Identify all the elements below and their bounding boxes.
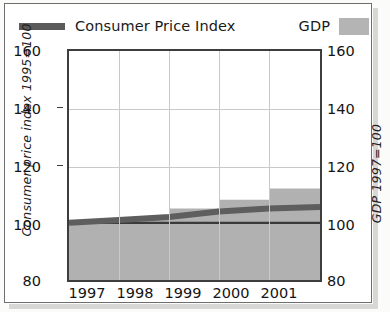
y-tick-right-140: 140 bbox=[327, 102, 367, 117]
y-tick-right-100: 100 bbox=[327, 218, 367, 233]
tick-mark-left-120 bbox=[57, 165, 63, 166]
series-gdp-step-area bbox=[69, 188, 320, 280]
tick-mark-left-140 bbox=[57, 107, 63, 108]
y-tick-left-100: 100 bbox=[1, 218, 41, 233]
chart-figure: Consumer Price Index GDP Consumer price … bbox=[0, 0, 390, 312]
y-axis-right-title: GDP 1997=100 bbox=[369, 99, 384, 249]
gridline-x-3 bbox=[219, 51, 220, 280]
x-tick-2001: 2001 bbox=[249, 285, 309, 301]
gridline-y-120 bbox=[69, 167, 320, 168]
legend-item-cpi[interactable]: Consumer Price Index bbox=[19, 14, 235, 38]
frame-shadow-bottom bbox=[9, 304, 378, 309]
gridline-x-1 bbox=[119, 51, 120, 280]
gridline-x-2 bbox=[169, 51, 170, 280]
legend-label-gdp: GDP bbox=[299, 18, 330, 34]
plot-area bbox=[67, 49, 322, 282]
legend-label-cpi: Consumer Price Index bbox=[75, 18, 235, 34]
chart-frame: Consumer Price Index GDP Consumer price … bbox=[4, 3, 372, 303]
y-tick-left-80: 80 bbox=[1, 274, 41, 289]
y-tick-right-160: 160 bbox=[327, 44, 367, 59]
y-tick-right-120: 120 bbox=[327, 160, 367, 175]
gridline-x-4 bbox=[269, 51, 270, 280]
y-tick-left-120: 120 bbox=[1, 160, 41, 175]
plot-inner bbox=[69, 51, 320, 280]
chart-series-svg bbox=[69, 51, 320, 280]
y-tick-left-140: 140 bbox=[1, 102, 41, 117]
chart-legend: Consumer Price Index GDP bbox=[15, 14, 371, 38]
y-tick-left-160: 160 bbox=[1, 44, 41, 59]
legend-swatch-fill-icon bbox=[339, 18, 369, 35]
legend-item-gdp[interactable]: GDP bbox=[299, 14, 369, 38]
y-tick-right-80: 80 bbox=[327, 274, 367, 289]
gridline-y-140 bbox=[69, 109, 320, 110]
